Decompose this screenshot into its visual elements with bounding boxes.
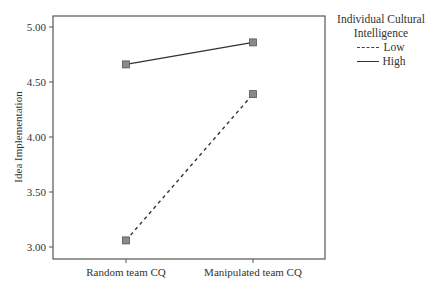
square-marker-icon (123, 61, 130, 68)
legend-label-high: High (383, 54, 406, 68)
legend-label-low: Low (383, 40, 404, 54)
square-marker-icon (250, 39, 257, 46)
series-line (126, 94, 253, 240)
y-tick-label: 4.00 (27, 131, 47, 143)
series-high (123, 39, 257, 68)
y-tick-label: 3.50 (27, 186, 47, 198)
legend-item-low: Low (330, 40, 432, 54)
dashed-line-icon (357, 47, 379, 48)
square-marker-icon (123, 237, 130, 244)
y-tick-label: 3.00 (27, 241, 47, 253)
solid-line-icon (357, 61, 379, 62)
series-low (123, 91, 257, 244)
x-tick-label: Manipulated team CQ (204, 266, 302, 278)
y-axis-title: Idea Implementation (12, 91, 24, 183)
x-axis: Random team CQManipulated team CQ (86, 259, 302, 278)
x-tick-label: Random team CQ (86, 266, 165, 278)
square-marker-icon (250, 91, 257, 98)
plot-frame (53, 16, 325, 259)
legend: Individual Cultural Intelligence Low Hig… (330, 12, 432, 68)
series-line (126, 42, 253, 64)
series-layer (123, 39, 257, 244)
y-tick-label: 4.50 (27, 76, 47, 88)
legend-title-line-1: Individual Cultural (330, 12, 432, 26)
y-tick-label: 5.00 (27, 21, 47, 33)
legend-item-high: High (330, 54, 432, 68)
y-axis: 3.003.504.004.505.00 (27, 21, 53, 253)
legend-title-line-2: Intelligence (330, 26, 432, 40)
plot-border (53, 16, 325, 259)
